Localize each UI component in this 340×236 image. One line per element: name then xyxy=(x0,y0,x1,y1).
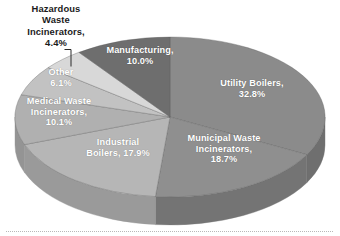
pie-top-face xyxy=(15,37,325,197)
slice-label-hazardous-waste-incinerators: Hazardous Waste Incinerators, 4.4% xyxy=(4,3,108,49)
bottom-divider xyxy=(6,231,334,232)
pie-chart: Hazardous Waste Incinerators, 4.4% Manuf… xyxy=(0,0,340,236)
